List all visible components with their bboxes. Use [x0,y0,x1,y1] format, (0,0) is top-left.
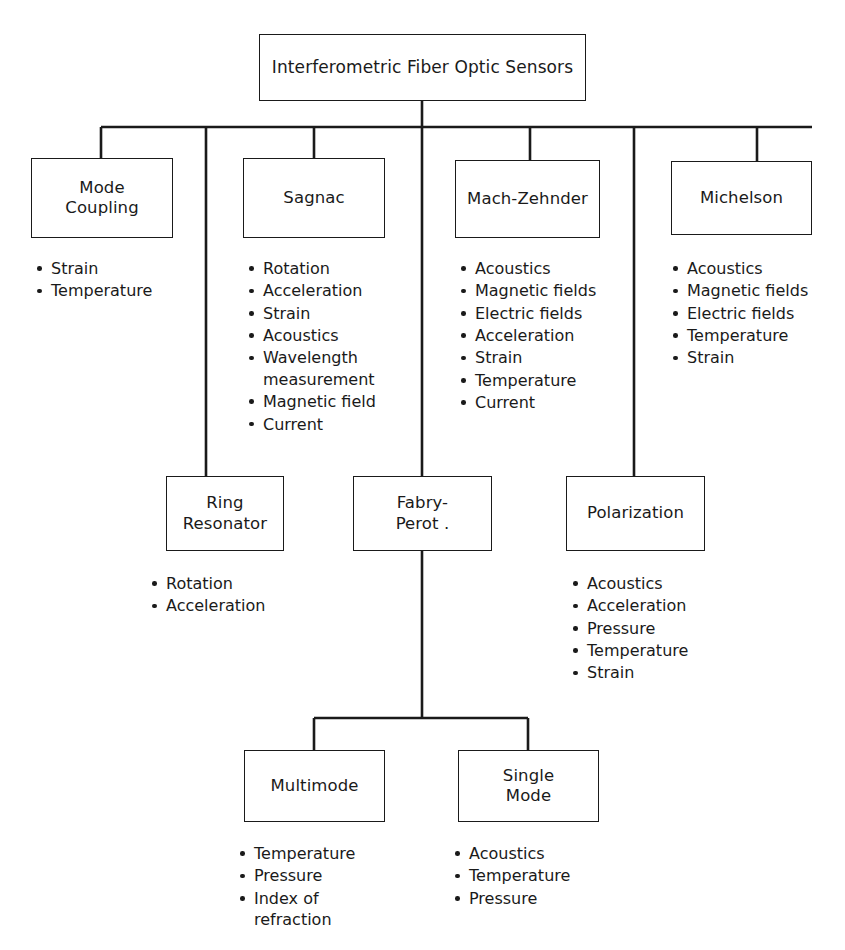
list-michelson-items: AcousticsMagnetic fieldsElectric fieldsT… [673,258,838,369]
node-ring-resonator-label: Ring Resonator [183,493,267,533]
list-item-label: Acoustics [687,259,763,278]
bullet-dot-icon [461,266,466,271]
list-item-label: Acoustics [475,259,551,278]
list-item: Temperature [573,640,733,661]
list-item: Current [461,392,621,413]
list-item-label: Magnetic fields [687,281,808,300]
bullet-dot-icon [673,311,678,316]
list-multimode: TemperaturePressureIndex of refraction [240,843,390,931]
list-item-label: Acceleration [475,326,574,345]
list-item: Index of refraction [240,888,390,931]
node-multimode-label: Multimode [270,776,358,796]
bullet-dot-icon [249,333,254,338]
list-item: Magnetic fields [461,280,621,301]
bullet-dot-icon [240,896,245,901]
list-item: Strain [249,303,409,324]
list-item: Strain [573,662,733,683]
node-polarization-label: Polarization [587,503,684,523]
list-item-label: Temperature [587,641,688,660]
diagram-canvas: Interferometric Fiber Optic Sensors Mode… [0,0,845,950]
list-item: Acoustics [249,325,409,346]
node-mode-coupling[interactable]: Mode Coupling [31,158,173,238]
node-mach-zehnder-label: Mach-Zehnder [467,189,588,209]
bullet-dot-icon [573,626,578,631]
bullet-dot-icon [573,648,578,653]
list-item-label: Current [263,415,323,434]
list-item: Electric fields [673,303,838,324]
node-mach-zehnder[interactable]: Mach-Zehnder [455,160,600,238]
list-item-label: Electric fields [475,304,582,323]
list-item-label: Acoustics [469,844,545,863]
list-item: Wavelength measurement [249,347,409,390]
list-item: Magnetic fields [673,280,838,301]
list-item: Temperature [461,370,621,391]
list-item-label: Temperature [687,326,788,345]
list-mach-zehnder-items: AcousticsMagnetic fieldsElectric fieldsA… [461,258,621,414]
bullet-dot-icon [573,604,578,609]
node-multimode[interactable]: Multimode [244,750,385,822]
bullet-dot-icon [249,422,254,427]
node-sagnac[interactable]: Sagnac [243,158,385,238]
node-root-label: Interferometric Fiber Optic Sensors [272,57,573,78]
list-item-label: Temperature [475,371,576,390]
list-item-label: Acceleration [587,596,686,615]
node-polarization[interactable]: Polarization [566,476,705,551]
list-single-mode-items: AcousticsTemperaturePressure [455,843,605,909]
list-item-label: Strain [263,304,310,323]
bullet-dot-icon [573,581,578,586]
list-item-label: Magnetic field [263,392,376,411]
bullet-dot-icon [240,874,245,879]
bullet-dot-icon [37,289,42,294]
list-single-mode: AcousticsTemperaturePressure [455,843,605,910]
node-michelson-label: Michelson [700,188,783,208]
bullet-dot-icon [249,399,254,404]
node-single-mode-label: Single Mode [503,766,554,806]
node-sagnac-label: Sagnac [283,188,344,208]
list-mode-coupling: StrainTemperature [37,258,187,303]
list-item-label: Acceleration [166,596,265,615]
list-item: Acceleration [573,595,733,616]
list-item-label: Pressure [469,889,537,908]
list-item: Temperature [240,843,390,864]
node-ring-resonator[interactable]: Ring Resonator [166,476,284,551]
list-item-label: Acceleration [263,281,362,300]
node-mode-coupling-label: Mode Coupling [65,178,138,218]
list-item: Strain [461,347,621,368]
list-item: Acceleration [461,325,621,346]
list-item: Electric fields [461,303,621,324]
bullet-dot-icon [152,581,157,586]
list-item-label: Magnetic fields [475,281,596,300]
list-item: Acoustics [455,843,605,864]
list-item-label: Pressure [587,619,655,638]
bullet-dot-icon [461,333,466,338]
list-item: Acoustics [673,258,838,279]
bullet-dot-icon [249,289,254,294]
list-item-label: Rotation [263,259,330,278]
bullet-dot-icon [240,851,245,856]
list-sagnac-items: RotationAccelerationStrainAcousticsWavel… [249,258,409,435]
bullet-dot-icon [249,311,254,316]
list-item: Strain [673,347,838,368]
bullet-dot-icon [455,874,460,879]
node-michelson[interactable]: Michelson [671,161,812,235]
list-michelson: AcousticsMagnetic fieldsElectric fieldsT… [673,258,838,370]
list-mode-coupling-items: StrainTemperature [37,258,187,302]
node-root[interactable]: Interferometric Fiber Optic Sensors [259,34,586,101]
list-ring-resonator: RotationAcceleration [152,573,312,618]
bullet-dot-icon [152,604,157,609]
list-mach-zehnder: AcousticsMagnetic fieldsElectric fieldsA… [461,258,621,415]
node-single-mode[interactable]: Single Mode [458,750,599,822]
bullet-dot-icon [461,289,466,294]
connector-lines [0,0,845,950]
list-item: Acoustics [573,573,733,594]
list-multimode-items: TemperaturePressureIndex of refraction [240,843,390,930]
node-fabry-perot[interactable]: Fabry- Perot . [353,476,492,551]
list-item: Magnetic field [249,391,409,412]
bullet-dot-icon [249,356,254,361]
bullet-dot-icon [455,851,460,856]
list-item: Pressure [240,865,390,886]
list-item: Rotation [152,573,312,594]
list-item-label: Rotation [166,574,233,593]
list-item-label: Acoustics [587,574,663,593]
list-item-label: Index of refraction [254,889,332,929]
